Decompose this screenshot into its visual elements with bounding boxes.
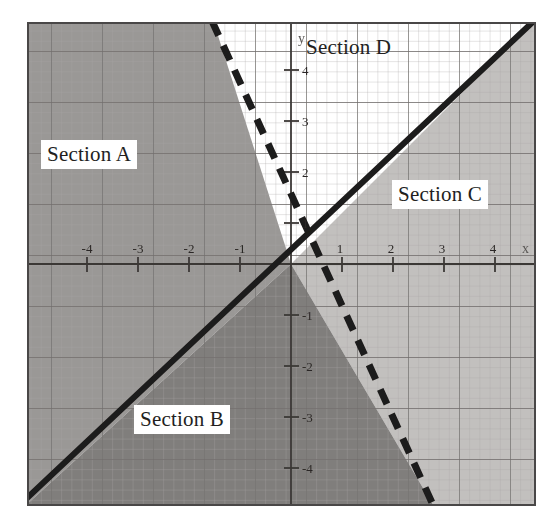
y-tick-label: -3: [302, 410, 313, 425]
region-label-section-b: Section B: [134, 405, 230, 434]
y-tick-label: -2: [302, 359, 313, 374]
region-label-section-c: Section C: [392, 180, 488, 209]
x-tick-label: 2: [388, 241, 395, 256]
x-tick-label: -3: [133, 241, 144, 256]
figure-root: -4 -3 -2 -1 1 2 3 4 4 3 2 1 -1 -2 -3 -4 …: [0, 0, 557, 530]
region-label-section-a: Section A: [41, 140, 137, 169]
x-tick-label: 4: [490, 241, 497, 256]
y-tick-label: 1: [302, 216, 309, 231]
x-tick-label: -4: [82, 241, 93, 256]
x-tick-label: -1: [235, 241, 246, 256]
y-tick-label: 4: [302, 63, 309, 78]
y-tick-label: 2: [302, 165, 309, 180]
x-axis-label: x: [522, 241, 529, 256]
region-label-section-d: Section D: [300, 33, 397, 62]
x-tick-label: 1: [337, 241, 344, 256]
x-tick-label: -2: [184, 241, 195, 256]
y-tick-label: -1: [302, 308, 313, 323]
y-tick-label: 3: [302, 114, 309, 129]
x-tick-label: 3: [439, 241, 446, 256]
coordinate-plane-graph: -4 -3 -2 -1 1 2 3 4 4 3 2 1 -1 -2 -3 -4 …: [0, 0, 557, 530]
y-tick-label: -4: [302, 461, 313, 476]
